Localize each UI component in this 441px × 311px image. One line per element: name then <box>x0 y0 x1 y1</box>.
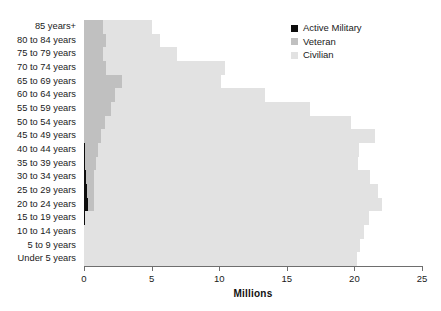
x-axis-tick-label: 5 <box>149 273 154 284</box>
bar-segment-veteran <box>84 34 106 48</box>
bar-row <box>84 88 422 102</box>
x-axis-line <box>84 266 422 267</box>
y-axis-label: 65 to 69 years <box>0 75 80 89</box>
y-axis-label: 40 to 44 years <box>0 143 80 157</box>
y-axis-label: 35 to 39 years <box>0 157 80 171</box>
bar-segment-civilian <box>96 157 358 171</box>
bar-segment-civilian <box>84 239 360 253</box>
legend-item[interactable]: Civilian <box>291 50 362 60</box>
bar-segment-civilian <box>84 225 364 239</box>
bar-segment-civilian <box>84 252 357 266</box>
bar-row <box>84 129 422 143</box>
x-axis-tick <box>84 266 85 271</box>
bar-row <box>84 157 422 171</box>
bar-segment-veteran <box>84 129 100 143</box>
legend-swatch-icon <box>291 38 298 45</box>
y-axis-label: 45 to 49 years <box>0 129 80 143</box>
bar-segment-civilian <box>106 61 225 75</box>
bar-segment-veteran <box>84 20 103 34</box>
bar-segment-veteran <box>84 88 115 102</box>
bar-segment-civilian <box>94 184 378 198</box>
y-axis-label: 85 years+ <box>0 20 80 34</box>
bar-segment-civilian <box>94 170 370 184</box>
bar-row <box>84 170 422 184</box>
y-axis-label: 25 to 29 years <box>0 184 80 198</box>
y-axis-label: 60 to 64 years <box>0 88 80 102</box>
x-axis-tick-label: 10 <box>214 273 225 284</box>
bar-row <box>84 184 422 198</box>
y-axis-label: 75 to 79 years <box>0 47 80 61</box>
y-axis-label: 50 to 54 years <box>0 116 80 130</box>
bar-row <box>84 47 422 61</box>
bar-row <box>84 225 422 239</box>
bar-row <box>84 116 422 130</box>
bar-row <box>84 211 422 225</box>
x-axis-tick <box>287 266 288 271</box>
bar-segment-veteran <box>86 170 94 184</box>
y-axis-label: 30 to 34 years <box>0 170 80 184</box>
y-axis-label: 55 to 59 years <box>0 102 80 116</box>
bar-row <box>84 239 422 253</box>
bar-segment-civilian <box>85 211 369 225</box>
bar-row <box>84 143 422 157</box>
bar-row <box>84 252 422 266</box>
bar-segment-civilian <box>101 129 375 143</box>
bar-row <box>84 198 422 212</box>
legend-label: Veteran <box>303 37 336 47</box>
legend-label: Civilian <box>303 50 334 60</box>
bar-segment-civilian <box>94 198 382 212</box>
bar-segment-civilian <box>122 75 221 89</box>
bar-segment-veteran <box>84 102 111 116</box>
y-axis-label: 5 to 9 years <box>0 239 80 253</box>
x-axis-tick-label: 25 <box>417 273 428 284</box>
bar-row <box>84 75 422 89</box>
y-axis-label: 10 to 14 years <box>0 225 80 239</box>
y-axis-label: 20 to 24 years <box>0 198 80 212</box>
x-axis-tick <box>354 266 355 271</box>
x-axis-title: Millions <box>84 288 422 299</box>
legend-swatch-icon <box>291 52 298 59</box>
x-axis-tick <box>152 266 153 271</box>
bar-segment-civilian <box>105 116 351 130</box>
y-axis-label: 70 to 74 years <box>0 61 80 75</box>
x-axis-tick <box>219 266 220 271</box>
population-pyramid-chart: 85 years+80 to 84 years75 to 79 years70 … <box>0 0 441 311</box>
bar-row <box>84 61 422 75</box>
legend-swatch-icon <box>291 25 298 32</box>
x-axis-tick-label: 20 <box>349 273 360 284</box>
bar-segment-civilian <box>98 143 359 157</box>
bar-segment-civilian <box>111 102 310 116</box>
bar-segment-civilian <box>103 20 152 34</box>
bar-row <box>84 102 422 116</box>
bar-segment-civilian <box>115 88 265 102</box>
legend-label: Active Military <box>303 23 362 33</box>
bar-segment-veteran <box>85 143 99 157</box>
x-axis-tick-label: 0 <box>81 273 86 284</box>
legend-item[interactable]: Veteran <box>291 37 362 47</box>
bar-segment-veteran <box>84 116 104 130</box>
bar-row <box>84 20 422 34</box>
x-axis-tick <box>422 266 423 271</box>
plot-area <box>84 20 422 266</box>
chart-legend: Active MilitaryVeteranCivilian <box>291 23 362 64</box>
bar-row <box>84 34 422 48</box>
y-axis-label: 80 to 84 years <box>0 34 80 48</box>
y-axis-label: Under 5 years <box>0 252 80 266</box>
y-axis-label: 15 to 19 years <box>0 211 80 225</box>
bar-segment-veteran <box>85 157 96 171</box>
y-axis-category-labels: 85 years+80 to 84 years75 to 79 years70 … <box>0 20 80 266</box>
legend-item[interactable]: Active Military <box>291 23 362 33</box>
bar-segment-veteran <box>84 61 106 75</box>
x-axis-tick-label: 15 <box>282 273 293 284</box>
bar-segment-civilian <box>106 34 160 48</box>
bar-segment-civilian <box>103 47 177 61</box>
bar-segment-veteran <box>84 75 122 89</box>
bar-segment-veteran <box>84 47 103 61</box>
bar-segment-veteran <box>87 184 94 198</box>
